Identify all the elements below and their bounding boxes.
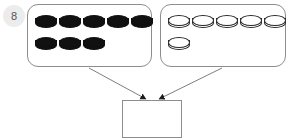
- dark-counter: [35, 37, 57, 53]
- counter-row: [35, 15, 153, 31]
- answer-input-box[interactable]: [122, 100, 182, 138]
- light-counter: [264, 15, 286, 31]
- light-counters-group: [160, 4, 286, 67]
- counter-row: [35, 37, 105, 53]
- arrow-from-dark-group: [89, 68, 146, 99]
- worksheet-problem: 8: [0, 0, 292, 140]
- dark-counter: [59, 15, 81, 31]
- light-counter: [168, 15, 190, 31]
- dark-counter: [35, 15, 57, 31]
- light-counter: [240, 15, 262, 31]
- dark-counter: [83, 15, 105, 31]
- light-counter: [192, 15, 214, 31]
- counter-row: [168, 15, 286, 31]
- counter-row: [168, 37, 190, 53]
- dark-counter: [107, 15, 129, 31]
- arrow-from-light-group: [159, 68, 222, 99]
- light-counter: [216, 15, 238, 31]
- dark-counter: [131, 15, 153, 31]
- dark-counter: [59, 37, 81, 53]
- dark-counter: [83, 37, 105, 53]
- dark-counters-group: [27, 4, 152, 67]
- problem-number-badge: 8: [3, 5, 25, 27]
- light-counter: [168, 37, 190, 53]
